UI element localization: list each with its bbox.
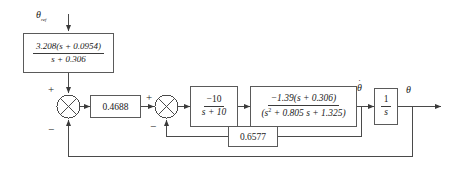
rate-feedback-block[interactable]: 0.6577 — [228, 126, 278, 147]
gain-block[interactable]: 0.4688 — [90, 95, 141, 118]
plant-fraction: −1.39(s + 0.306) (s2 + 0.805 s + 1.325) — [258, 94, 348, 119]
theta-dot-label: ˙θ — [357, 82, 362, 93]
plant-denominator-rest: + 0.805 s + 1.325) — [271, 108, 345, 118]
block-diagram: θref 3.208(s + 0.0954) s + 0.306 + − 0.4… — [0, 0, 454, 172]
lead-compensator-fraction: 3.208(s + 0.0954) s + 0.306 — [33, 42, 104, 64]
lead-compensator-block[interactable]: 3.208(s + 0.0954) s + 0.306 — [23, 33, 114, 73]
plant-denominator: (s2 + 0.805 s + 1.325) — [258, 106, 348, 119]
outer-sum-plus-sign: + — [48, 84, 54, 95]
integrator-numerator: 1 — [381, 95, 392, 107]
actuator-fraction: −10 s + 10 — [199, 95, 229, 118]
reference-signal-label: θref — [36, 9, 46, 22]
actuator-denominator: s + 10 — [199, 107, 229, 118]
lead-compensator-denominator: s + 0.306 — [48, 54, 88, 64]
plant-block[interactable]: −1.39(s + 0.306) (s2 + 0.805 s + 1.325) — [250, 86, 357, 127]
gain-value: 0.4688 — [102, 102, 128, 112]
actuator-numerator: −10 — [204, 95, 225, 107]
theta-output-label: θ — [406, 84, 411, 95]
lead-compensator-numerator: 3.208(s + 0.0954) — [33, 42, 104, 53]
inner-sum-plus-sign: + — [146, 92, 152, 103]
theta-dot-accent: ˙ — [358, 78, 361, 88]
integrator-fraction: 1 s — [381, 95, 392, 118]
actuator-block[interactable]: −10 s + 10 — [190, 86, 238, 127]
integrator-block[interactable]: 1 s — [374, 88, 398, 125]
theta-dot-glyph-wrap: ˙θ — [357, 82, 362, 93]
plant-numerator: −1.39(s + 0.306) — [268, 94, 340, 106]
reference-subscript: ref — [41, 17, 46, 22]
outer-sum-minus-sign: − — [48, 124, 54, 135]
rate-feedback-value: 0.6577 — [240, 132, 266, 142]
inner-sum-minus-sign: − — [150, 121, 156, 132]
integrator-denominator: s — [381, 107, 391, 118]
